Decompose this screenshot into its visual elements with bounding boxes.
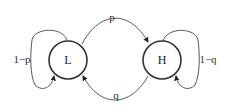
node-h-label: H [158,53,167,67]
edge-l-to-h [82,18,148,44]
edge-label-p: p [109,11,115,23]
edge-label-1-minus-q: 1−q [199,53,217,65]
edge-label-1-minus-p: 1−p [13,53,31,65]
node-l-label: L [64,53,71,67]
state-diagram: p q 1−p 1−q L H [0,0,231,112]
edge-label-q: q [113,89,119,101]
